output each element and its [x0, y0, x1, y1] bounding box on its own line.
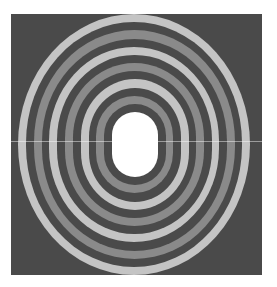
horizontal-line	[11, 141, 262, 142]
center-hole	[112, 112, 158, 177]
